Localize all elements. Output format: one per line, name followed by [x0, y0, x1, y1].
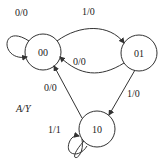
svg-text:01: 01 [134, 48, 144, 59]
svg-text:0/0: 0/0 [44, 82, 57, 93]
svg-text:00: 00 [38, 47, 48, 58]
transition-00-01: 1/0 [57, 6, 124, 43]
svg-text:1/0: 1/0 [82, 6, 95, 17]
svg-text:0/0: 0/0 [73, 56, 86, 67]
svg-text:1/0: 1/0 [127, 88, 140, 99]
state-01: 01 [121, 35, 157, 71]
state-00: 00 [25, 34, 61, 70]
svg-text:10: 10 [92, 124, 102, 135]
io-legend: A/Y [15, 103, 32, 114]
transition-01-00: 0/0 [60, 56, 124, 73]
svg-text:1/1: 1/1 [48, 124, 61, 135]
state-diagram: 00 01 10 0/0 1/0 0/0 1/0 0/0 1/1 [0, 0, 167, 165]
transition-10-00: 0/0 [44, 66, 82, 118]
svg-text:0/0: 0/0 [15, 7, 28, 18]
state-10: 10 [79, 111, 115, 147]
transition-01-10: 1/0 [109, 70, 140, 115]
